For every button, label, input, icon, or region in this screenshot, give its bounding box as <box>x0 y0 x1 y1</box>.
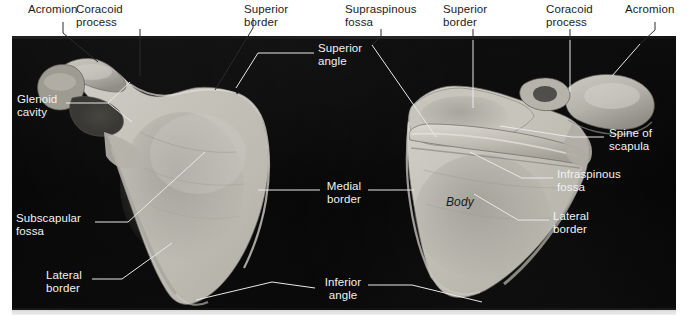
fossa-highlight <box>150 114 246 194</box>
left-scapula-anterior-view <box>38 58 269 304</box>
glenoid-shading <box>80 102 120 130</box>
label-inferior-angle: Inferior angle <box>318 276 368 301</box>
label-coracoid-process-left: Coracoid process <box>76 3 123 28</box>
label-lateral-border-left: Lateral border <box>46 269 82 294</box>
label-acromion-left: Acromion <box>28 3 77 16</box>
label-acromion-right: Acromion <box>625 3 674 16</box>
photo-under-strip <box>12 310 676 315</box>
label-superior-border-right: Superior border <box>443 3 487 28</box>
right-acromion-highlight <box>584 83 640 109</box>
label-medial-border: Medial border <box>322 180 366 205</box>
label-superior-angle: Superior angle <box>318 42 362 67</box>
label-infraspinous-fossa: Infraspinous fossa <box>557 168 621 193</box>
scapula-figure: Acromion Coracoid process Superior borde… <box>0 0 691 324</box>
label-superior-border-left: Superior border <box>244 3 288 28</box>
label-coracoid-process-right: Coracoid process <box>546 3 593 28</box>
coracoid-notch-shadow <box>533 86 557 102</box>
acromion-highlight <box>44 73 76 91</box>
label-body: Body <box>446 196 474 209</box>
label-glenoid-cavity: Glenoid cavity <box>17 93 57 118</box>
label-subscapular-fossa: Subscapular fossa <box>16 212 81 237</box>
label-spine-of-scapula: Spine of scapula <box>609 127 652 152</box>
label-supraspinous-fossa: Supraspinous fossa <box>345 3 417 28</box>
label-lateral-border-right: Lateral border <box>553 210 589 235</box>
